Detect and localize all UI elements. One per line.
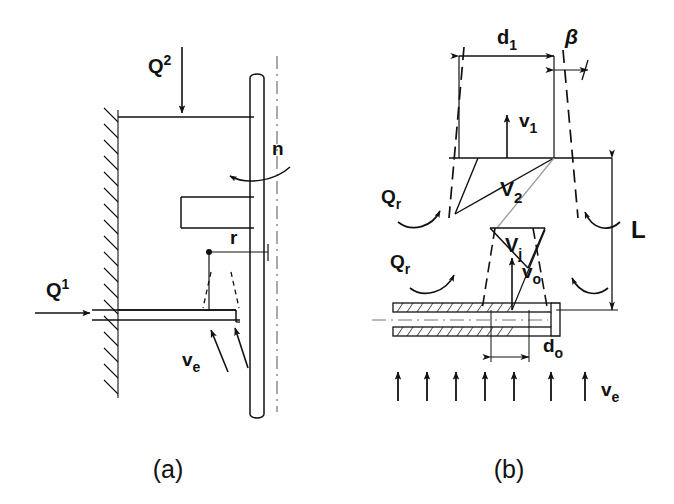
technical-diagram: Q2 Q1 n r (0, 0, 674, 504)
rotation-speed-label: n (272, 138, 284, 159)
panel-a-caption: (a) (153, 455, 184, 483)
beta-label: β (564, 25, 578, 48)
L-label: L (631, 216, 646, 243)
panel-b-caption: (b) (494, 455, 525, 483)
figure-container: Q2 Q1 n r (0, 0, 674, 504)
canvas-background (0, 0, 674, 504)
radius-label: r (230, 227, 238, 248)
